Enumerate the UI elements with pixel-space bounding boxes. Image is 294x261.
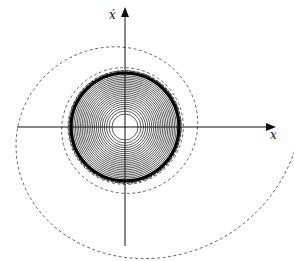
x-axis-label: x [270,128,277,142]
y-axis-label: ẋ [109,8,116,22]
phase-portrait [0,0,294,261]
